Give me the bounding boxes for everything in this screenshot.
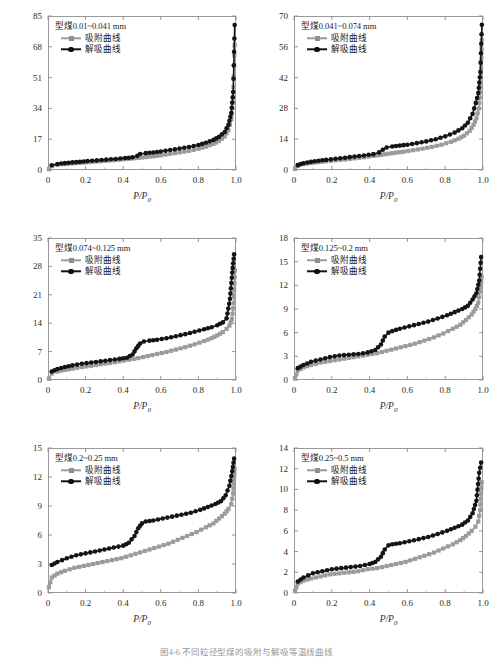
data-point-marker: [202, 339, 206, 343]
data-point-marker: [415, 141, 420, 146]
x-tick-label: 0.6: [155, 175, 166, 185]
data-point-marker: [227, 301, 232, 306]
data-point-marker: [49, 163, 54, 168]
x-axis-title-subscript: 0: [147, 619, 151, 627]
x-tick-label: 0.6: [402, 598, 413, 608]
data-point-marker: [118, 156, 123, 161]
data-point-marker: [351, 352, 356, 357]
x-axis-title-text: P/P: [133, 191, 147, 201]
data-point-marker: [232, 482, 236, 486]
legend-item-adsorption: 吸附曲线: [61, 255, 130, 265]
data-point-marker: [301, 575, 306, 580]
data-point-marker: [366, 153, 371, 158]
data-point-marker: [227, 483, 232, 488]
adsorption-series: [293, 480, 484, 593]
data-point-marker: [430, 145, 434, 149]
data-point-marker: [187, 145, 192, 150]
x-tick-label: 0: [292, 385, 297, 395]
data-point-marker: [402, 540, 407, 545]
data-point-marker: [361, 351, 366, 356]
data-point-marker: [231, 76, 236, 81]
panel-legend: 型煤0.01~0.041 mm吸附曲线解吸曲线: [55, 21, 126, 54]
data-point-marker: [109, 157, 114, 162]
data-point-marker: [418, 340, 422, 344]
data-point-marker: [226, 507, 230, 511]
data-point-marker: [96, 561, 100, 565]
panel-legend: 型煤0.2~0.25 mm吸附曲线解吸曲线: [55, 453, 121, 486]
legend-item-adsorption: 吸附曲线: [307, 465, 367, 475]
data-point-marker: [480, 23, 485, 28]
data-point-marker: [371, 152, 376, 157]
data-point-marker: [98, 359, 103, 364]
legend-item-adsorption: 吸附曲线: [61, 465, 121, 475]
data-point-marker: [231, 306, 235, 310]
chart-panel-5: 标准状况下的气体体积/(mL/g)0246810121400.20.40.60.…: [246, 432, 493, 645]
legend-marker: [315, 258, 320, 263]
data-point-marker: [174, 334, 179, 339]
data-point-marker: [130, 155, 135, 160]
data-point-marker: [324, 158, 329, 163]
data-point-marker: [413, 342, 417, 346]
data-point-marker: [221, 320, 226, 325]
figure-panel-grid: 标准状况下的气体体积/(mL/g)0173451688500.20.40.60.…: [0, 0, 493, 645]
plot-canvas: [0, 432, 246, 645]
data-point-marker: [476, 476, 481, 481]
data-point-marker: [426, 535, 431, 540]
data-point-marker: [138, 152, 143, 157]
legend-label: 吸附曲线: [331, 255, 367, 265]
sample-label: 型煤0.125~0.2 mm: [301, 243, 368, 253]
data-point-marker: [333, 156, 338, 161]
x-tick-label: 0.2: [80, 598, 91, 608]
data-point-marker: [194, 530, 198, 534]
data-point-marker: [398, 150, 402, 154]
data-point-marker: [230, 100, 235, 105]
data-point-marker: [377, 150, 382, 155]
legend-marker: [314, 47, 319, 52]
legend-label: 解吸曲线: [331, 44, 367, 54]
x-axis-title: P/P0: [133, 191, 151, 204]
data-point-marker: [90, 158, 95, 163]
legend-item-desorption: 解吸曲线: [61, 266, 130, 276]
data-point-marker: [103, 358, 108, 363]
data-point-marker: [93, 549, 98, 554]
data-point-marker: [70, 363, 75, 368]
data-point-marker: [59, 570, 63, 574]
data-point-marker: [379, 342, 384, 347]
data-point-marker: [477, 471, 482, 476]
data-point-marker: [305, 577, 309, 581]
x-axis-title: P/P0: [133, 401, 151, 414]
data-point-marker: [228, 291, 233, 296]
adsorption-series: [293, 38, 484, 171]
data-point-marker: [399, 345, 403, 349]
data-point-marker: [131, 357, 135, 361]
data-point-marker: [318, 357, 323, 362]
data-point-marker: [138, 550, 142, 554]
chart-panel-4: 标准状况下的气体体积/(mL/g)0369121500.20.40.60.81.…: [0, 432, 246, 645]
data-point-marker: [470, 529, 474, 533]
data-point-marker: [170, 514, 175, 519]
data-point-marker: [231, 465, 236, 470]
data-point-marker: [74, 553, 79, 558]
circle-marker-icon: [61, 477, 81, 486]
data-point-marker: [347, 570, 351, 574]
legend-marker: [315, 36, 320, 41]
legend-marker: [69, 468, 74, 473]
data-point-marker: [422, 338, 426, 342]
data-point-marker: [475, 493, 480, 498]
data-point-marker: [229, 111, 234, 116]
data-point-marker: [390, 151, 394, 155]
x-axis-title-subscript: 0: [394, 619, 398, 627]
data-point-marker: [178, 346, 182, 350]
data-point-marker: [429, 138, 434, 143]
data-point-marker: [351, 570, 355, 574]
data-point-marker: [168, 148, 173, 153]
data-point-marker: [375, 566, 379, 570]
square-marker-icon: [307, 34, 327, 43]
data-point-marker: [151, 518, 156, 523]
data-point-marker: [333, 358, 337, 362]
data-point-marker: [94, 360, 99, 365]
data-point-marker: [107, 546, 112, 551]
data-point-marker: [337, 571, 341, 575]
data-point-marker: [333, 572, 337, 576]
data-point-marker: [477, 278, 482, 283]
